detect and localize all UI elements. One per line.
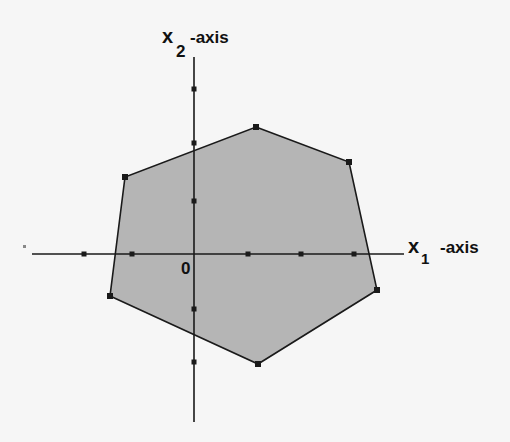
x1-tick-mark bbox=[352, 252, 357, 257]
x2-tick-mark bbox=[192, 199, 197, 204]
x1-axis-label-subscript: 1 bbox=[421, 250, 429, 267]
x2-axis-label-subscript: 2 bbox=[176, 42, 185, 61]
feasible-region-diagram: 0 x 2 -axis x 1 -axis bbox=[0, 0, 510, 442]
x1-tick-mark bbox=[246, 252, 251, 257]
x1-tick-mark bbox=[82, 252, 87, 257]
vertex-marker bbox=[107, 293, 113, 299]
vertex-marker bbox=[122, 174, 128, 180]
vertex-marker bbox=[346, 159, 352, 165]
x1-tick-mark bbox=[299, 252, 304, 257]
x2-tick-mark bbox=[192, 141, 197, 146]
x2-tick-mark bbox=[192, 87, 197, 92]
vertex-marker bbox=[255, 361, 261, 367]
x2-axis-label-main: x bbox=[162, 25, 173, 47]
x1-axis-label-main: x bbox=[408, 235, 419, 257]
x2-axis-label-suffix: -axis bbox=[190, 28, 229, 47]
stray-mark bbox=[23, 245, 26, 248]
origin-label: 0 bbox=[181, 259, 190, 278]
x2-tick-mark bbox=[192, 307, 197, 312]
x1-tick-mark bbox=[130, 252, 135, 257]
vertex-marker bbox=[374, 287, 380, 293]
x1-axis-label-suffix: -axis bbox=[440, 238, 479, 257]
x2-tick-mark bbox=[192, 360, 197, 365]
vertex-marker bbox=[253, 124, 259, 130]
